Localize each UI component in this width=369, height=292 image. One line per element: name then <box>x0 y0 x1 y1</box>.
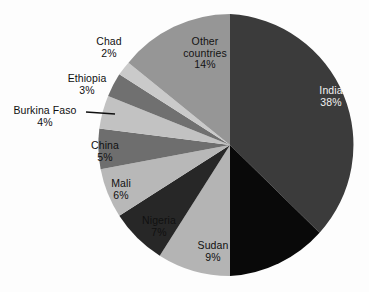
slice-label-sudan-percent: 9% <box>182 252 244 264</box>
slice-label-sudan: Sudan 9% <box>182 240 244 264</box>
slice-label-india-name: India <box>300 85 362 97</box>
slice-label-other-countries-percent: 14% <box>160 59 250 71</box>
slice-label-burkina-faso: Burkina Faso 4% <box>2 105 88 129</box>
slice-label-china: China 5% <box>74 140 136 164</box>
slice-label-india: India 38% <box>300 85 362 109</box>
slice-label-nigeria: Nigeria 7% <box>128 215 190 239</box>
slice-label-chad-percent: 2% <box>78 48 140 60</box>
slice-label-india-percent: 38% <box>300 97 362 109</box>
slice-label-nigeria-name: Nigeria <box>128 215 190 227</box>
slice-label-burkina-faso-percent: 4% <box>2 117 88 129</box>
slice-label-mali-name: Mali <box>94 178 148 190</box>
slice-label-sudan-name: Sudan <box>182 240 244 252</box>
slice-label-other-countries-line1: Other <box>160 36 250 48</box>
slice-label-ethiopia-name: Ethiopia <box>52 73 122 85</box>
slice-label-chad-name: Chad <box>78 36 140 48</box>
pie-chart: India 38% Other countries 14% Chad 2% Et… <box>0 0 369 292</box>
slice-label-nigeria-percent: 7% <box>128 227 190 239</box>
slice-label-mali-percent: 6% <box>94 190 148 202</box>
slice-label-mali: Mali 6% <box>94 178 148 202</box>
slice-label-china-percent: 5% <box>74 152 136 164</box>
slice-label-china-name: China <box>74 140 136 152</box>
slice-label-ethiopia: Ethiopia 3% <box>52 73 122 97</box>
slice-label-burkina-faso-name: Burkina Faso <box>2 105 88 117</box>
slice-label-other-countries: Other countries 14% <box>160 36 250 71</box>
slice-label-chad: Chad 2% <box>78 36 140 60</box>
slice-label-ethiopia-percent: 3% <box>52 85 122 97</box>
